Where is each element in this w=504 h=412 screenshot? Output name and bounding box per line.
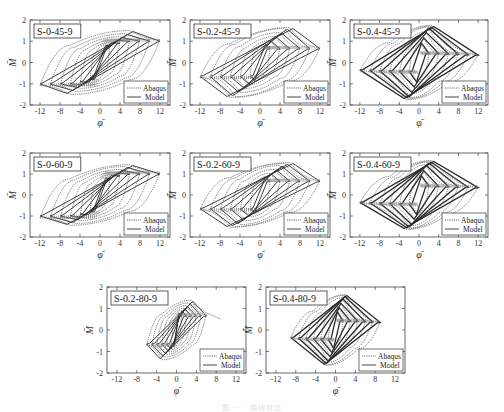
x-tick-label: 8 (298, 239, 302, 248)
legend-abaqus-label: Abaqus (219, 352, 242, 361)
y-tick-label: 1 (258, 305, 262, 314)
legend: AbaqusModel (284, 213, 328, 235)
y-tick-label: -1 (19, 212, 26, 221)
x-tick-label: 4 (437, 107, 441, 116)
x-tick-label: 0 (175, 375, 179, 384)
x-tick-label: 8 (138, 107, 142, 116)
x-tick-label: 0 (334, 375, 338, 384)
y-axis-label: M̄ (167, 58, 178, 68)
legend: AbaqusModel (442, 213, 486, 235)
y-tick-label: 2 (342, 16, 346, 25)
x-axis-label: φ̄ (97, 117, 106, 128)
y-axis-label: M̄ (327, 58, 338, 68)
svg-text:S-0.4-80-9: S-0.4-80-9 (273, 293, 316, 304)
x-tick-label: -8 (57, 107, 64, 116)
legend-model-label: Model (305, 93, 325, 102)
x-tick-label: 4 (194, 375, 198, 384)
x-tick-label: -12 (35, 239, 46, 248)
panel-title: S-0.4-60-9 (354, 157, 411, 171)
y-tick-label: 0 (342, 191, 346, 200)
hysteresis-plot-s-0.4-60-9: -12-8-404812-2-1012φ̄M̄S-0.4-60-9AbaqusM… (350, 153, 488, 237)
y-tick-label: 2 (99, 283, 103, 292)
y-tick-label: 2 (182, 16, 186, 25)
panel-title: S-0.2-80-9 (111, 291, 168, 305)
legend: AbaqusModel (284, 81, 328, 103)
y-tick-label: 1 (342, 37, 346, 46)
x-tick-label: 0 (417, 239, 421, 248)
legend-model-label: Model (145, 225, 165, 234)
x-tick-label: 12 (474, 107, 482, 116)
y-tick-label: -1 (96, 348, 103, 357)
x-tick-label: 8 (456, 239, 460, 248)
legend: AbaqusModel (359, 349, 403, 371)
x-tick-label: -8 (376, 239, 383, 248)
legend: AbaqusModel (200, 349, 244, 371)
hysteresis-plot-s-0-45-9: -12-8-404812-2-1012φ̄M̄S-0-45-9AbaqusMod… (30, 20, 170, 105)
x-tick-label: 4 (118, 107, 122, 116)
y-tick-label: 0 (258, 326, 262, 335)
y-tick-label: 1 (22, 170, 26, 179)
hysteresis-plot-s-0-60-9: -12-8-404812-2-1012φ̄M̄S-0-60-9AbaqusMod… (30, 153, 170, 237)
x-tick-label: 0 (258, 239, 262, 248)
hysteresis-plot-s-0.4-45-9: -12-8-404812-2-1012φ̄M̄S-0.4-45-9AbaqusM… (350, 20, 488, 105)
x-tick-label: -8 (57, 239, 64, 248)
y-tick-label: 2 (22, 149, 26, 158)
svg-text:S-0.2-45-9: S-0.2-45-9 (197, 26, 240, 37)
y-tick-label: -1 (19, 80, 26, 89)
legend-model-label: Model (305, 225, 325, 234)
y-tick-label: 0 (182, 59, 186, 68)
svg-text:S-0-45-9: S-0-45-9 (37, 26, 73, 37)
x-tick-label: -12 (355, 107, 366, 116)
y-axis-label: M̄ (7, 190, 18, 200)
x-tick-label: 8 (138, 239, 142, 248)
y-tick-label: 1 (182, 37, 186, 46)
y-tick-label: -2 (339, 101, 346, 110)
x-tick-label: 8 (214, 375, 218, 384)
svg-text:S-0.4-45-9: S-0.4-45-9 (357, 26, 400, 37)
x-tick-label: -4 (153, 375, 160, 384)
x-tick-label: 8 (298, 107, 302, 116)
hysteresis-plot-s-0.4-80-9: -12-8-404812-2-1012φ̄M̄S-0.4-80-9AbaqusM… (266, 287, 405, 373)
x-tick-label: -12 (35, 107, 46, 116)
legend-model-label: Model (221, 361, 241, 370)
y-tick-label: 2 (22, 16, 26, 25)
figure-caption: 图 · · · 曲线对比 (0, 402, 504, 412)
y-tick-label: 0 (22, 59, 26, 68)
legend-model-label: Model (380, 361, 400, 370)
x-axis-label: φ̄ (257, 249, 266, 260)
x-tick-label: 8 (373, 375, 377, 384)
x-tick-label: -12 (195, 107, 206, 116)
legend-abaqus-label: Abaqus (461, 84, 484, 93)
x-tick-label: -4 (77, 107, 84, 116)
y-tick-label: 0 (99, 326, 103, 335)
y-tick-label: -2 (255, 369, 262, 378)
y-tick-label: 0 (182, 191, 186, 200)
x-tick-label: -8 (376, 107, 383, 116)
x-axis-label: φ̄ (174, 385, 183, 396)
x-tick-label: -4 (237, 239, 244, 248)
y-tick-label: -2 (179, 101, 186, 110)
y-tick-label: 2 (342, 149, 346, 158)
x-axis-label: φ̄ (416, 117, 425, 128)
y-tick-label: -2 (96, 369, 103, 378)
x-tick-label: -8 (292, 375, 299, 384)
y-tick-label: -1 (179, 212, 186, 221)
x-tick-label: 4 (437, 239, 441, 248)
legend-model-label: Model (145, 93, 165, 102)
y-tick-label: -2 (19, 101, 26, 110)
x-tick-label: -4 (77, 239, 84, 248)
legend-abaqus-label: Abaqus (303, 84, 326, 93)
y-tick-label: -2 (179, 233, 186, 242)
y-tick-label: -1 (179, 80, 186, 89)
legend-abaqus-label: Abaqus (143, 84, 166, 93)
x-tick-label: -4 (312, 375, 319, 384)
x-tick-label: -12 (355, 239, 366, 248)
x-tick-label: 8 (456, 107, 460, 116)
x-tick-label: -8 (133, 375, 140, 384)
x-tick-label: 12 (474, 239, 482, 248)
svg-text:S-0.2-80-9: S-0.2-80-9 (114, 293, 157, 304)
y-axis-label: M̄ (327, 190, 338, 200)
y-tick-label: 1 (22, 37, 26, 46)
y-tick-label: 1 (99, 305, 103, 314)
x-tick-label: -12 (112, 375, 123, 384)
